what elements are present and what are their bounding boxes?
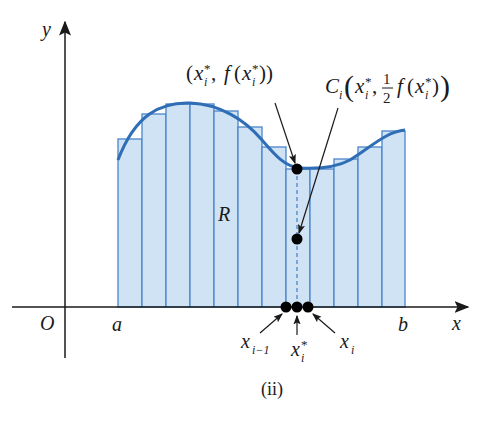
origin-label: O: [40, 312, 54, 334]
svg-text:1: 1: [383, 71, 391, 87]
svg-text:2: 2: [383, 90, 391, 106]
top-point-dot: [292, 164, 303, 175]
interval-left-label: a: [112, 313, 122, 335]
svg-text:(: (: [407, 74, 414, 98]
svg-text:i: i: [301, 351, 304, 365]
x-i-label: x i: [339, 330, 354, 357]
x-i-minus-1-dot: [281, 302, 292, 313]
svg-text:(: (: [344, 69, 354, 103]
svg-text:*: *: [365, 74, 372, 89]
strip-rectangle: [166, 104, 190, 307]
x-i-star-dot: [292, 302, 303, 313]
rectangle-strips: [118, 104, 405, 307]
riemann-centroid-diagram: y x O a b R ( x i * , f ( x i * )) C i (…: [0, 0, 493, 427]
svg-text:x: x: [414, 74, 425, 98]
svg-text:x: x: [290, 338, 300, 360]
svg-text:*: *: [301, 337, 308, 352]
x-axis-label: x: [451, 312, 461, 334]
strip-rectangle: [142, 114, 166, 307]
svg-text:): ): [432, 74, 439, 98]
centroid-dot: [292, 234, 303, 245]
svg-text:*: *: [204, 61, 211, 76]
svg-text:): ): [440, 69, 450, 103]
svg-text:*: *: [252, 61, 259, 76]
svg-text:f: f: [397, 74, 406, 98]
strip-rectangle: [238, 127, 262, 307]
svg-text:)): )): [259, 61, 273, 85]
top-point-label: ( x i * , f ( x i * )): [186, 61, 273, 89]
svg-text:i: i: [425, 88, 428, 102]
centroid-label: C i ( x i * , 1 2 f ( x i * ) ): [325, 69, 450, 106]
strip-rectangle: [262, 147, 286, 307]
strip-rectangle: [310, 169, 334, 307]
svg-text:x: x: [240, 330, 250, 352]
svg-text:x: x: [193, 61, 204, 85]
svg-text:i: i: [252, 75, 255, 89]
strip-rectangle: [382, 131, 405, 307]
svg-text:,: ,: [211, 61, 216, 85]
strip-rectangle: [118, 139, 142, 307]
svg-text:i: i: [204, 75, 207, 89]
strip-rectangle: [334, 159, 358, 307]
x-i-dot: [303, 302, 314, 313]
svg-text:(: (: [186, 61, 193, 85]
x-i-minus-1-label: x i−1: [240, 330, 269, 357]
svg-text:f: f: [224, 61, 233, 85]
svg-text:x: x: [241, 61, 252, 85]
svg-text:i: i: [351, 343, 354, 357]
svg-text:(: (: [234, 61, 241, 85]
x-i-star-label: x i *: [290, 337, 308, 365]
strip-rectangle: [358, 147, 382, 307]
svg-text:i: i: [339, 88, 342, 102]
svg-text:x: x: [354, 74, 365, 98]
svg-text:x: x: [339, 330, 349, 352]
region-label: R: [217, 203, 230, 225]
svg-text:i: i: [365, 88, 368, 102]
svg-text:i−1: i−1: [252, 343, 269, 357]
figure-caption: (ii): [261, 379, 283, 400]
svg-text:*: *: [425, 74, 432, 89]
strip-rectangle: [190, 104, 214, 307]
svg-text:C: C: [325, 74, 340, 98]
y-axis-label: y: [40, 18, 51, 41]
x-i-arrow: [313, 314, 335, 333]
x-i-minus-1-arrow: [260, 314, 282, 333]
interval-right-label: b: [398, 313, 408, 335]
svg-text:,: ,: [372, 74, 377, 98]
